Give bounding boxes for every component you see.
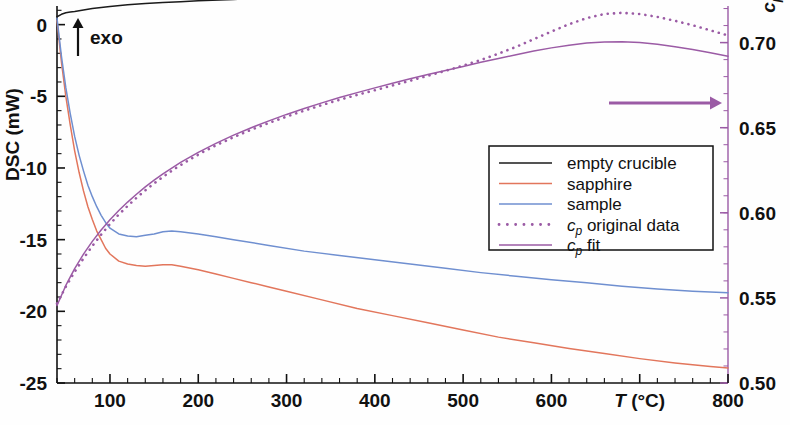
x-axis-tick-label: 400 [359,390,391,411]
legend-item-label: cp fit [567,236,600,258]
x-axis-tick-label: 500 [447,390,479,411]
left-axis-tick-label: -5 [30,86,47,107]
left-axis-tick-label: 0 [36,15,47,36]
left-axis-tick-label: -20 [20,301,47,322]
right-axis-title-symbol: c [758,2,779,13]
right-axis-tick-label: 0.70 [739,33,776,54]
x-axis-tick-label: 200 [182,390,214,411]
x-axis-tick-label: 600 [536,390,568,411]
right-axis-title-subscript: p [768,0,783,3]
x-axis-tick-label: 300 [271,390,303,411]
legend-item-label: sample [567,195,622,214]
legend-label-rest: original data [582,216,680,235]
legend-item-label: cp original data [567,216,680,238]
legend-group[interactable]: empty cruciblesapphiresamplecp original … [489,146,713,258]
exo-label: exo [90,27,123,48]
left-axis-title: DSC (mW) [2,88,23,181]
x-axis-title: T (°C) [614,390,665,411]
x-axis-tick-label: 800 [712,390,744,411]
left-axis-tick-label: -25 [20,373,48,394]
x-axis-title-unit: (°C) [626,390,665,411]
left-axis-tick-label: -10 [20,158,47,179]
legend-item-label: empty crucible [567,154,677,173]
right-axis-tick-label: 0.50 [739,373,776,394]
x-axis-tick-label: 100 [94,390,126,411]
legend-label-rest: fit [582,236,600,255]
legend-item-label: sapphire [567,175,632,194]
chart-canvas: 0-5-10-15-20-250.700.650.600.550.5010020… [0,0,790,425]
right-axis-tick-label: 0.55 [739,288,776,309]
right-axis-tick-label: 0.65 [739,118,776,139]
left-axis-tick-label: -15 [20,230,48,251]
right-axis-tick-label: 0.60 [739,203,776,224]
dsc-cp-chart-figure: 0-5-10-15-20-250.700.650.600.550.5010020… [0,0,790,425]
